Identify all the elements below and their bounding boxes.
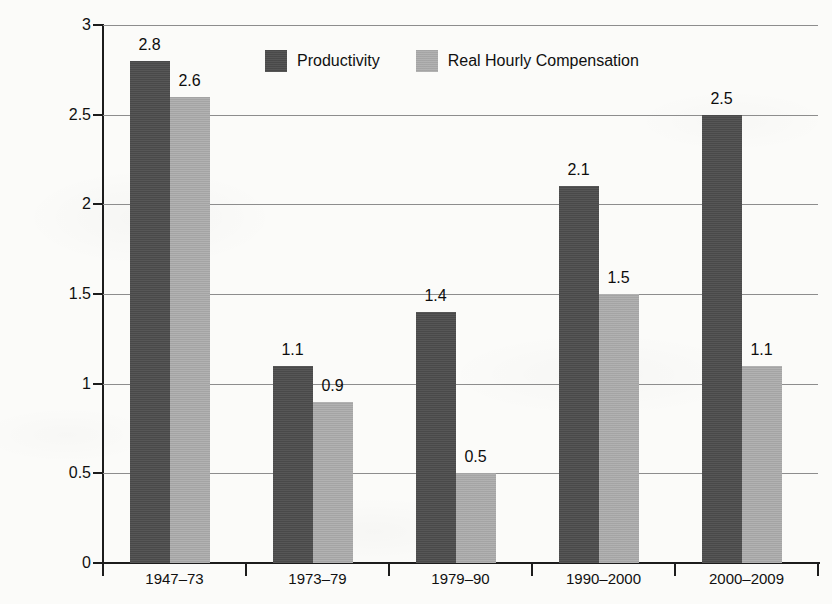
bar-value-label: 2.1 <box>547 162 611 178</box>
bar-value-label: 0.5 <box>444 449 508 465</box>
x-axis-category-label: 1973–79 <box>246 570 389 588</box>
y-axis-tick-label: 2 <box>39 196 91 212</box>
x-axis-category-label: 1979–90 <box>389 570 532 588</box>
bar-compensation <box>170 97 210 563</box>
y-axis-tick-label: 1.5 <box>39 286 91 302</box>
plot-area: 2.82.61.10.91.40.52.11.52.51.1 <box>103 25 818 563</box>
bar-value-label: 1.1 <box>730 342 794 358</box>
y-axis-tick-label: 0.5 <box>39 465 91 481</box>
bar-value-label: 2.6 <box>158 73 222 89</box>
legend-swatch-compensation <box>416 50 438 72</box>
y-axis-tick-label: 3 <box>39 17 91 33</box>
bar-value-label: 0.9 <box>301 378 365 394</box>
y-axis-tick-label: 0 <box>39 555 91 571</box>
bar-productivity <box>559 186 599 563</box>
bar-value-label: 2.8 <box>118 37 182 53</box>
legend-swatch-productivity <box>265 50 287 72</box>
bar-productivity <box>416 312 456 563</box>
legend-label: Productivity <box>297 53 380 69</box>
y-axis-tick-label: 2.5 <box>39 107 91 123</box>
bar-chart-figure: Average annual percent change 00.511.522… <box>0 0 832 604</box>
bar-productivity <box>130 61 170 563</box>
bar-compensation <box>456 473 496 563</box>
x-axis-category-label: 1990–2000 <box>532 570 675 588</box>
bar-compensation <box>599 294 639 563</box>
x-axis-category-label: 1947–73 <box>103 570 246 588</box>
legend-item: Real Hourly Compensation <box>416 50 639 72</box>
gridline <box>103 25 818 26</box>
bar-value-label: 1.1 <box>261 342 325 358</box>
x-axis-category-label: 2000–2009 <box>675 570 818 588</box>
bar-compensation <box>742 366 782 563</box>
y-axis-tick-label: 1 <box>39 376 91 392</box>
legend-label: Real Hourly Compensation <box>448 53 639 69</box>
bar-productivity <box>702 115 742 563</box>
bar-value-label: 1.5 <box>587 270 651 286</box>
bar-value-label: 2.5 <box>690 91 754 107</box>
chart-legend: ProductivityReal Hourly Compensation <box>265 50 639 72</box>
bar-compensation <box>313 402 353 563</box>
legend-item: Productivity <box>265 50 380 72</box>
bar-productivity <box>273 366 313 563</box>
bar-value-label: 1.4 <box>404 288 468 304</box>
